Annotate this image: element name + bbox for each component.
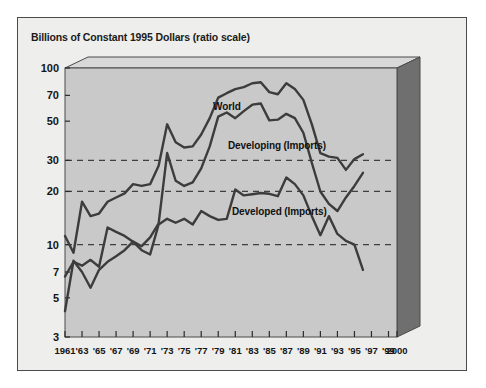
series-annotation: World [213, 101, 241, 112]
y-tick-label: 7 [31, 266, 59, 278]
x-tick-label: '83 [246, 345, 259, 356]
x-tick-label: '81 [229, 345, 242, 356]
y-tick-label: 70 [31, 89, 59, 101]
series-annotation: Developing (Imports) [228, 140, 326, 151]
x-tick-label: 1961 [54, 345, 75, 356]
figure-container: Billions of Constant 1995 Dollars (ratio… [0, 0, 486, 388]
x-tick-label: '63 [76, 345, 89, 356]
y-tick-label: 5 [31, 292, 59, 304]
x-tick-label: '73 [161, 345, 174, 356]
x-tick-label: '69 [127, 345, 140, 356]
y-tick-label: 100 [31, 62, 59, 74]
block-side-face [397, 57, 420, 337]
y-tick-label: 50 [31, 115, 59, 127]
x-tick-label: '93 [331, 345, 344, 356]
x-tick-label: '75 [178, 345, 191, 356]
x-tick-label: '65 [93, 345, 106, 356]
y-tick-label: 10 [31, 239, 59, 251]
x-tick-label: '91 [314, 345, 327, 356]
x-tick-label: '77 [195, 345, 208, 356]
series-annotation: Developed (Imports) [232, 206, 327, 217]
x-tick-label: 2000 [386, 345, 407, 356]
x-tick-label: '89 [297, 345, 310, 356]
x-tick-label: '79 [212, 345, 225, 356]
x-tick-label: '85 [263, 345, 276, 356]
y-tick-label: 30 [31, 154, 59, 166]
x-tick-label: '87 [280, 345, 293, 356]
x-tick-label: '97 [365, 345, 378, 356]
x-tick-label: '71 [144, 345, 157, 356]
x-tick-label: '67 [110, 345, 123, 356]
block-top-face [65, 57, 420, 68]
y-tick-label: 20 [31, 185, 59, 197]
y-tick-label: 3 [31, 331, 59, 343]
plot-area [0, 0, 486, 388]
x-tick-label: '95 [348, 345, 361, 356]
